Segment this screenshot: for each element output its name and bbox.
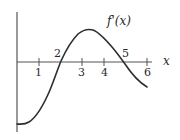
tick-label-3: 3 — [78, 66, 85, 79]
tick-label-6: 6 — [144, 66, 151, 79]
x-axis-label: x — [163, 54, 170, 68]
function-label: f'(x) — [106, 14, 131, 28]
tick-label-4: 4 — [101, 66, 108, 79]
derivative-graph: 1 2 3 4 5 6 x f'(x) — [0, 0, 180, 140]
tick-label-1: 1 — [35, 66, 42, 79]
chart-svg: 1 2 3 4 5 6 x f'(x) — [0, 0, 180, 140]
tick-label-5: 5 — [122, 47, 129, 60]
tick-label-2: 2 — [54, 47, 61, 60]
